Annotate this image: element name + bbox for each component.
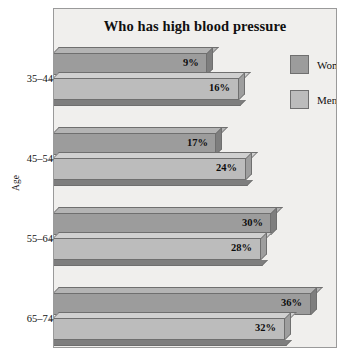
chart-title: Who has high blood pressure <box>54 18 336 35</box>
bar-side-face <box>285 318 291 340</box>
y-axis-title: Age <box>11 163 21 203</box>
group-base-35-44 <box>53 100 246 106</box>
value-label-55-64-men: 28% <box>231 242 252 253</box>
bar-front-face <box>53 238 261 260</box>
value-label-45-54-men: 24% <box>216 162 237 173</box>
legend-swatch-women-icon <box>290 55 309 74</box>
group-base-45-54 <box>53 180 253 186</box>
group-base-55-64 <box>53 260 268 266</box>
y-tick-label-65-74: 65–74 <box>0 313 53 324</box>
bar-side-face <box>239 78 245 100</box>
group-base-65-74 <box>53 340 292 346</box>
legend-label-men: Men <box>317 94 337 106</box>
legend-swatch-men-icon <box>290 90 309 109</box>
value-label-45-54-women: 17% <box>187 137 208 148</box>
value-label-55-64-women: 30% <box>242 217 263 228</box>
bar-front-face <box>53 318 285 340</box>
bar-side-face <box>261 238 267 260</box>
y-tick-label-55-64: 55–64 <box>0 233 53 244</box>
legend-label-women: Women <box>317 59 337 71</box>
value-label-35-44-men: 16% <box>209 82 230 93</box>
bar-side-face <box>311 293 317 315</box>
value-label-35-44-women: 9% <box>183 57 199 68</box>
bar-side-face <box>246 158 252 180</box>
value-label-65-74-women: 36% <box>281 297 302 308</box>
legend-item-women: Women <box>290 55 337 74</box>
y-tick-label-45-54: 45–54 <box>0 153 53 164</box>
y-tick-label-35-44: 35–44 <box>0 73 53 84</box>
plot-area: Who has high blood pressure 9% 16% 17% <box>53 8 337 348</box>
value-label-65-74-men: 32% <box>255 322 276 333</box>
legend-item-men: Men <box>290 90 337 109</box>
chart-container: Who has high blood pressure 9% 16% 17% <box>0 0 348 360</box>
